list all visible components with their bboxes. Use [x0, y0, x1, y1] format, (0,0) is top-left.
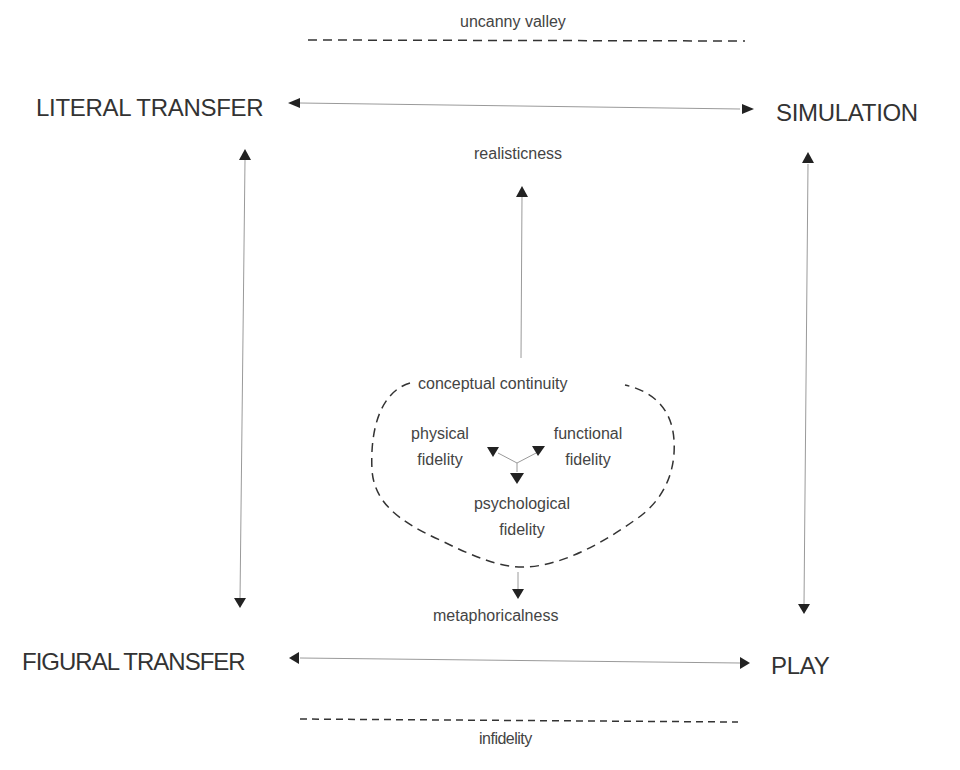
arrowhead-down-icon: [798, 604, 810, 614]
functional-fidelity-label: functional fidelity: [538, 421, 638, 473]
fidelity-converging-arrows: [487, 446, 545, 484]
realisticness-arrow: [516, 186, 528, 358]
arrowhead-up-icon: [516, 186, 528, 197]
play-label: PLAY: [771, 652, 829, 680]
literal-transfer-label: LITERAL TRANSFER: [36, 94, 263, 122]
infidelity-dashed-line: [300, 719, 738, 722]
uncanny-valley-dashed-line: [308, 40, 745, 41]
arrowhead-up-icon: [239, 149, 251, 160]
functional-fidelity-line1: functional: [538, 421, 638, 447]
arrowhead-down-icon: [510, 473, 524, 484]
bottom-horizontal-arrow: [289, 652, 750, 669]
physical-fidelity-line1: physical: [400, 421, 480, 447]
simulation-label: SIMULATION: [776, 99, 918, 127]
physical-fidelity-label: physical fidelity: [400, 421, 480, 473]
psychological-fidelity-label: psychological fidelity: [462, 491, 582, 543]
physical-fidelity-line2: fidelity: [400, 447, 480, 473]
figural-transfer-label: FIGURAL TRANSFER: [22, 648, 245, 676]
functional-fidelity-line2: fidelity: [538, 447, 638, 473]
left-vertical-arrow: [234, 149, 251, 608]
arrowhead-right-icon: [742, 104, 754, 114]
arrowhead-left-icon: [288, 98, 300, 108]
arrowhead-up-icon: [802, 152, 814, 163]
psychological-fidelity-line1: psychological: [462, 491, 582, 517]
psychological-fidelity-line2: fidelity: [462, 517, 582, 543]
arrowhead-left-icon: [289, 652, 299, 664]
infidelity-label: infidelity: [479, 730, 532, 748]
arrowhead-down-icon: [487, 447, 499, 457]
arrowhead-right-icon: [740, 657, 750, 669]
metaphoricalness-label: metaphoricalness: [433, 607, 558, 625]
arrowhead-down-icon: [512, 589, 524, 599]
conceptual-continuity-label: conceptual continuity: [418, 375, 567, 393]
arrowhead-down-icon: [234, 598, 246, 608]
uncanny-valley-label: uncanny valley: [460, 13, 566, 31]
right-vertical-arrow: [798, 152, 814, 614]
metaphoricalness-arrow: [512, 572, 524, 599]
realisticness-label: realisticness: [474, 145, 562, 163]
top-horizontal-arrow: [288, 98, 754, 114]
